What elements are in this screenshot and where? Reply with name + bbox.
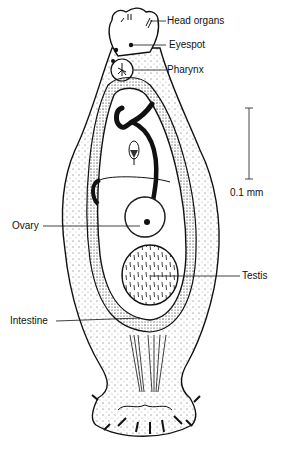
label-eyespot: Eyespot — [169, 39, 205, 51]
label-head-organs: Head organs — [167, 15, 224, 27]
ovary — [125, 197, 165, 237]
eyespot-left — [114, 48, 118, 52]
label-intestine: Intestine — [10, 315, 48, 327]
scale-bar — [245, 108, 253, 179]
eyespot-right — [129, 43, 133, 47]
label-pharynx: Pharynx — [167, 64, 204, 76]
label-testis: Testis — [242, 270, 268, 282]
label-ovary: Ovary — [12, 220, 39, 232]
testis — [122, 245, 178, 305]
organism-diagram — [0, 0, 287, 458]
head — [109, 8, 158, 56]
scale-bar-label: 0.1 mm — [230, 187, 263, 199]
